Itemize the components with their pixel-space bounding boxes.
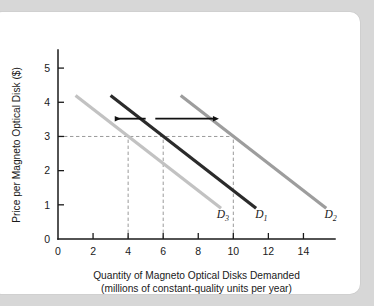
y-tick-label-4: 4 <box>44 96 50 108</box>
axes-group: 01234502468101214 <box>44 50 335 257</box>
figure-card: 01234502468101214 D3D1D2 Price per Magne… <box>0 12 360 294</box>
x-tick-label-6: 6 <box>160 245 166 257</box>
x-tick-label-8: 8 <box>195 245 201 257</box>
x-tick-label-0: 0 <box>55 245 61 257</box>
demand-curves-group <box>76 95 327 208</box>
y-tick-label-2: 2 <box>44 164 50 176</box>
x-tick-label-10: 10 <box>227 245 239 257</box>
y-axis-title: Price per Magneto Optical Disk ($) <box>11 67 22 223</box>
x-tick-label-4: 4 <box>125 245 131 257</box>
reference-guide-lines <box>58 136 233 239</box>
x-axis-title-line1: Quantity of Magneto Optical Disks Demand… <box>93 270 300 281</box>
demand-curve-D2 <box>181 95 327 208</box>
y-tick-label-3: 3 <box>44 130 50 142</box>
curve-label-sub-D1: 1 <box>264 214 268 223</box>
curve-label-sub-D2: 2 <box>333 214 337 223</box>
x-tick-label-2: 2 <box>90 245 96 257</box>
demand-shift-chart: 01234502468101214 D3D1D2 Price per Magne… <box>6 39 340 294</box>
curve-label-D1: D1 <box>254 208 267 223</box>
x-tick-label-12: 12 <box>263 245 275 257</box>
x-axis-title-line2: (millions of constant-quality units per … <box>101 283 292 294</box>
y-tick-label-5: 5 <box>44 62 50 74</box>
curve-label-sub-D3: 3 <box>224 214 229 223</box>
curve-labels-group: D3D1D2 <box>216 208 337 223</box>
curve-label-D2: D2 <box>323 208 336 223</box>
page-background: 01234502468101214 D3D1D2 Price per Magne… <box>0 0 374 306</box>
chart-canvas: 01234502468101214 D3D1D2 Price per Magne… <box>6 39 340 294</box>
y-tick-label-0: 0 <box>44 233 50 245</box>
demand-curve-D1 <box>111 95 257 208</box>
y-tick-label-1: 1 <box>44 199 50 211</box>
demand-curve-D3 <box>76 95 222 208</box>
x-tick-label-14: 14 <box>298 245 310 257</box>
curve-label-D3: D3 <box>216 208 229 223</box>
axis-titles-group: Price per Magneto Optical Disk ($)Quanti… <box>11 67 300 294</box>
